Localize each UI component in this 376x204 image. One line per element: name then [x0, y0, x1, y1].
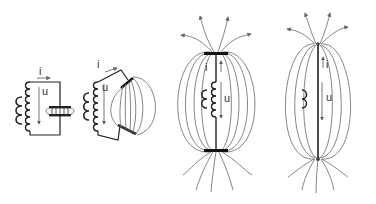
- excitation-coil-icon: [84, 93, 89, 120]
- dipole-end-bottom: [316, 157, 320, 161]
- panel-closed-lc-circuit: i u: [16, 65, 74, 135]
- voltage-label: u: [42, 85, 48, 97]
- bottom-plate: [204, 149, 228, 152]
- field-lines: [178, 16, 255, 192]
- excitation-coil-icon: [202, 90, 207, 108]
- current-label: i: [39, 65, 41, 77]
- capacitor-icon: [46, 106, 74, 116]
- top-plate: [204, 52, 228, 55]
- inductor-coil-icon: [26, 82, 31, 131]
- circuit-wire: [98, 126, 120, 140]
- current-label: i: [205, 61, 207, 73]
- inductor-coil-icon: [94, 82, 99, 131]
- voltage-label: u: [326, 91, 332, 103]
- circuit-wire: [30, 115, 60, 135]
- field-lines: [111, 77, 156, 135]
- lc-to-dipole-diagram: i u i u: [0, 0, 376, 204]
- voltage-label: u: [224, 92, 230, 104]
- panel-open-circuit-with-coil: i u: [178, 16, 255, 192]
- current-label: i: [326, 58, 328, 70]
- dipole-end-top: [316, 42, 320, 46]
- excitation-coil-icon: [16, 97, 22, 124]
- current-arrow-icon: [105, 68, 117, 72]
- current-label: i: [97, 58, 99, 70]
- panel-dipole-antenna: i u: [285, 13, 350, 193]
- panel-opening-capacitor: i u: [84, 58, 156, 140]
- voltage-label: u: [102, 81, 108, 93]
- inductor-coil-icon: [212, 82, 217, 117]
